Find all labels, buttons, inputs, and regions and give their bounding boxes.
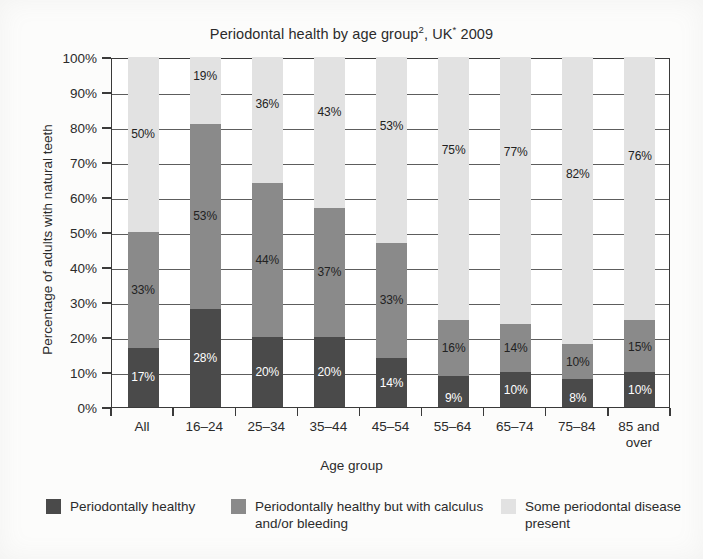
bar-segment-medium[interactable]: 53% — [190, 124, 221, 310]
bar-segment-value-label: 14% — [380, 376, 404, 390]
y-tick-label: 90% — [37, 86, 97, 101]
x-tick-mark — [172, 408, 173, 416]
stacked-bar[interactable]: 8%10%82% — [562, 57, 593, 407]
legend-swatch-icon-light — [501, 499, 516, 514]
bar-segment-value-label: 76% — [628, 149, 652, 163]
bar-segment-value-label: 10% — [566, 355, 590, 369]
stacked-bar[interactable]: 9%16%75% — [438, 57, 469, 407]
y-tick-mark — [102, 302, 111, 303]
bar-segment-value-label: 36% — [255, 97, 279, 111]
bar-segment-light[interactable]: 19% — [190, 57, 221, 124]
x-tick-mark — [110, 408, 111, 416]
y-tick-label: 100% — [37, 51, 97, 66]
chart-legend: Periodontally healthy Periodontally heal… — [46, 498, 686, 532]
y-tick-label: 80% — [37, 121, 97, 136]
x-tick-label: 85 andover — [602, 419, 676, 451]
bar-segment-light[interactable]: 82% — [562, 57, 593, 344]
bar-segment-dark[interactable]: 14% — [376, 358, 407, 407]
y-tick-label: 10% — [37, 366, 97, 381]
legend-label-1: Periodontally healthy but with calculus … — [255, 498, 501, 532]
x-tick-mark — [669, 408, 670, 416]
legend-item-healthy-with-calculus: Periodontally healthy but with calculus … — [231, 498, 501, 532]
legend-label-2: Some periodontal disease present — [525, 498, 686, 532]
bar-segment-value-label: 44% — [255, 253, 279, 267]
chart-title-year: 2009 — [456, 26, 493, 42]
bar-segment-value-label: 37% — [318, 265, 342, 279]
bar-segment-medium[interactable]: 10% — [562, 344, 593, 379]
legend-swatch-icon-dark — [46, 499, 61, 514]
y-tick-mark — [102, 162, 111, 163]
y-tick-label: 30% — [37, 296, 97, 311]
bar-segment-value-label: 8% — [569, 391, 586, 405]
bar-segment-dark[interactable]: 10% — [624, 372, 655, 407]
y-tick-mark — [102, 337, 111, 338]
y-tick-mark — [102, 57, 111, 58]
y-tick-label: 40% — [37, 261, 97, 276]
bar-segment-value-label: 14% — [504, 341, 528, 355]
bar-segment-medium[interactable]: 44% — [252, 183, 283, 337]
bar-segment-value-label: 33% — [131, 283, 155, 297]
x-tick-mark — [359, 408, 360, 416]
y-tick-label: 60% — [37, 191, 97, 206]
x-tick-mark — [545, 408, 546, 416]
bar-segment-medium[interactable]: 14% — [500, 324, 531, 373]
stacked-bar[interactable]: 10%15%76% — [624, 57, 655, 407]
bar-segment-medium[interactable]: 33% — [376, 243, 407, 359]
bar-segment-medium[interactable]: 15% — [624, 320, 655, 372]
y-tick-mark — [102, 92, 111, 93]
y-tick-mark — [102, 197, 111, 198]
stacked-bar[interactable]: 20%37%43% — [314, 57, 345, 407]
bar-segment-value-label: 10% — [504, 383, 528, 397]
bar-segment-value-label: 82% — [566, 167, 590, 181]
chart-title: Periodontal health by age group2, UK* 20… — [0, 26, 703, 42]
bar-segment-value-label: 77% — [504, 145, 528, 159]
bar-segment-value-label: 15% — [628, 340, 652, 354]
y-tick-label: 20% — [37, 331, 97, 346]
stacked-bar[interactable]: 17%33%50% — [128, 57, 159, 407]
bar-segment-medium[interactable]: 33% — [128, 232, 159, 348]
y-tick-mark — [102, 127, 111, 128]
bar-segment-value-label: 20% — [318, 365, 342, 379]
bar-segment-light[interactable]: 36% — [252, 57, 283, 183]
y-tick-label: 50% — [37, 226, 97, 241]
stacked-bar[interactable]: 10%14%77% — [500, 57, 531, 407]
bar-segment-light[interactable]: 76% — [624, 57, 655, 320]
bar-segment-value-label: 10% — [628, 383, 652, 397]
bar-segment-value-label: 53% — [380, 119, 404, 133]
bar-segment-dark[interactable]: 8% — [562, 379, 593, 407]
bar-segment-light[interactable]: 53% — [376, 57, 407, 243]
bar-segment-value-label: 17% — [131, 370, 155, 384]
bar-segment-dark[interactable]: 28% — [190, 309, 221, 407]
stacked-bar[interactable]: 20%44%36% — [252, 57, 283, 407]
bar-segment-medium[interactable]: 16% — [438, 320, 469, 376]
y-tick-mark — [102, 267, 111, 268]
bar-segment-light[interactable]: 50% — [128, 57, 159, 232]
bar-segment-value-label: 33% — [380, 293, 404, 307]
bar-segment-dark[interactable]: 9% — [438, 376, 469, 408]
bar-segment-light[interactable]: 75% — [438, 57, 469, 320]
x-tick-mark — [483, 408, 484, 416]
bar-segment-light[interactable]: 43% — [314, 57, 345, 208]
x-tick-label-line: 85 and — [602, 419, 676, 435]
stacked-bar[interactable]: 28%53%19% — [190, 57, 221, 407]
bar-segment-dark[interactable]: 20% — [314, 337, 345, 407]
stacked-bar[interactable]: 14%33%53% — [376, 57, 407, 407]
plot-area: 17%33%50%28%53%19%20%44%36%20%37%43%14%3… — [111, 58, 670, 408]
bar-segment-value-label: 53% — [193, 209, 217, 223]
bar-segment-value-label: 43% — [318, 105, 342, 119]
x-tick-label-line: over — [602, 435, 676, 451]
legend-item-some-disease: Some periodontal disease present — [501, 498, 686, 532]
bar-segment-dark[interactable]: 20% — [252, 337, 283, 407]
chart-title-main: Periodontal health by age group — [210, 26, 419, 42]
bar-segment-value-label: 9% — [445, 391, 462, 405]
chart-figure: Periodontal health by age group2, UK* 20… — [0, 0, 703, 559]
legend-swatch-icon-medium — [231, 499, 246, 514]
y-tick-mark — [102, 372, 111, 373]
bar-segment-value-label: 19% — [193, 69, 217, 83]
bar-segment-dark[interactable]: 17% — [128, 348, 159, 408]
bar-segment-medium[interactable]: 37% — [314, 208, 345, 338]
bar-segment-dark[interactable]: 10% — [500, 372, 531, 407]
y-tick-label: 0% — [37, 401, 97, 416]
bar-segment-value-label: 50% — [131, 127, 155, 141]
bar-segment-light[interactable]: 77% — [500, 57, 531, 324]
